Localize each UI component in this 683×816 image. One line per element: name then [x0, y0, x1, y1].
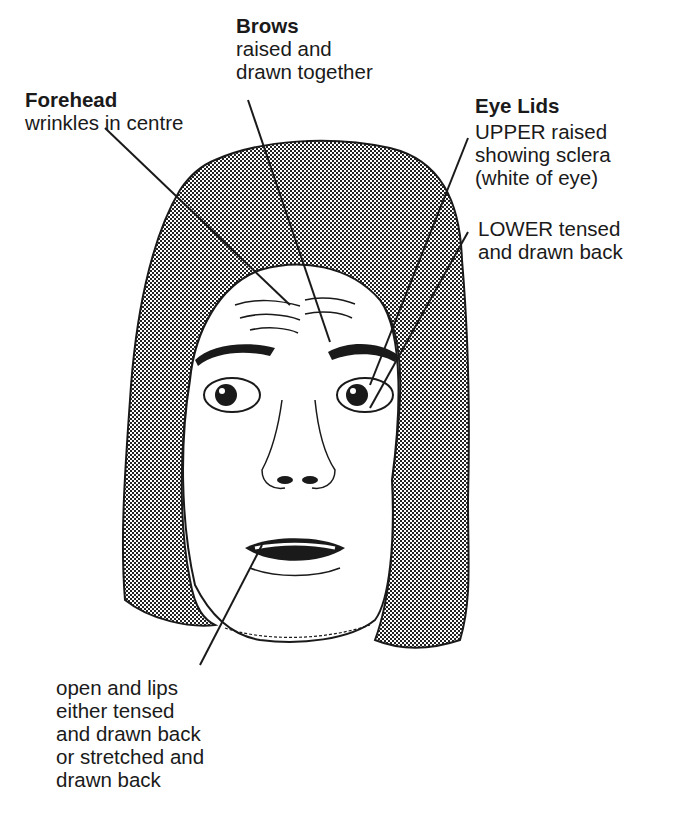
lower-lid-label: LOWER tensed and drawn back [478, 217, 623, 263]
brows-desc-1: raised and [236, 37, 373, 60]
forehead-label: Forehead wrinkles in centre [25, 88, 183, 134]
brows-title: Brows [236, 14, 373, 37]
forehead-desc: wrinkles in centre [25, 111, 183, 134]
eyelids-label: Eye Lids UPPER raised showing sclera (wh… [475, 94, 611, 189]
brows-label: Brows raised and drawn together [236, 14, 373, 83]
eyelids-upper-2: showing sclera [475, 143, 611, 166]
face [183, 265, 398, 642]
eyelids-upper-1: UPPER raised [475, 120, 611, 143]
mouth-desc-1: open and lips [56, 676, 204, 699]
left-eye [204, 378, 260, 412]
mouth-desc-4: or stretched and [56, 745, 204, 768]
mouth-desc-5: drawn back [56, 768, 204, 791]
lower-lid-1: LOWER tensed [478, 217, 623, 240]
eyelids-title: Eye Lids [475, 94, 611, 117]
brows-desc-2: drawn together [236, 60, 373, 83]
lower-lid-2: and drawn back [478, 240, 623, 263]
eyelids-upper-3: (white of eye) [475, 166, 611, 189]
forehead-title: Forehead [25, 88, 183, 111]
mouth-desc-3: and drawn back [56, 722, 204, 745]
mouth-desc-2: either tensed [56, 699, 204, 722]
mouth-label: open and lips either tensed and drawn ba… [56, 676, 204, 791]
